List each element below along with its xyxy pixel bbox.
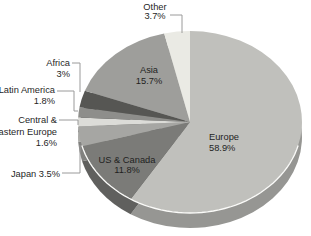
slice-label-central-eastern-europe: Central &Eastern Europe1.6% (0, 115, 58, 148)
slice-label-line: Europe (209, 132, 239, 142)
slice-label-line: 58.9% (209, 143, 235, 153)
slice-label-line: US & Canada (99, 155, 157, 165)
slice-label-line: 1.8% (34, 96, 55, 106)
slice-label-line: Africa (46, 58, 71, 68)
world-regions-pie-chart: Europe58.9%US & Canada11.8%Japan 3.5%Cen… (0, 0, 311, 236)
leader-line-japan (62, 145, 80, 173)
slice-label-line: Central & (18, 115, 58, 125)
world-regions-pie-figure: Europe58.9%US & Canada11.8%Japan 3.5%Cen… (0, 0, 311, 236)
slice-label-other: Other3.7% (143, 2, 166, 21)
pie-slices (78, 31, 302, 213)
slice-label-line: Asia (140, 65, 159, 75)
slice-label-latin-america: Latin America1.8% (0, 85, 56, 106)
leader-line-latin-america (57, 91, 78, 111)
slice-label-line: Japan 3.5% (11, 169, 60, 179)
leader-line-africa (72, 63, 80, 92)
slice-label-line: 3% (57, 69, 70, 79)
slice-label-line: 1.6% (36, 138, 57, 148)
slice-label-line: Eastern Europe (0, 127, 57, 137)
slice-label-europe: Europe58.9% (209, 132, 239, 153)
slice-label-japan: Japan 3.5% (11, 169, 60, 179)
leader-line-central-eastern-europe (59, 120, 78, 125)
slice-label-africa: Africa3% (46, 58, 71, 79)
slice-label-line: 11.8% (114, 165, 140, 175)
slice-label-line: Latin America (0, 85, 56, 95)
slice-label-line: 3.7% (144, 11, 165, 21)
leader-line-other (170, 15, 182, 33)
slice-label-line: 15.7% (136, 76, 162, 86)
